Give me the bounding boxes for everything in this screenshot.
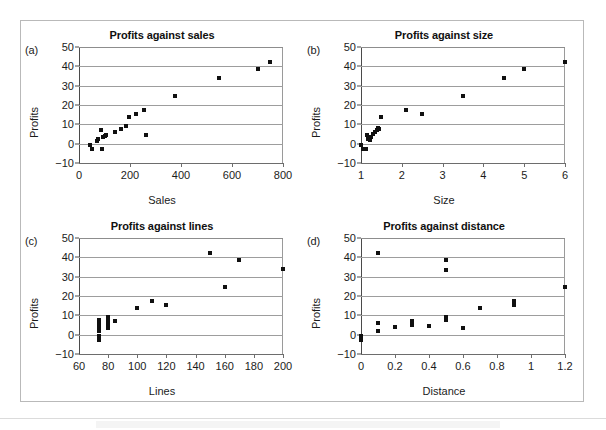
x-tick-mark: [130, 163, 131, 167]
y-tick-label: 50: [62, 233, 74, 244]
y-tick-mark: [75, 257, 79, 258]
gridline-y: [361, 86, 565, 87]
data-point: [359, 338, 363, 342]
gridline-y: [79, 86, 283, 87]
y-tick-label: 10: [344, 119, 356, 130]
x-tick-label: 400: [172, 170, 190, 181]
data-point: [208, 251, 212, 255]
data-point: [512, 303, 516, 307]
y-tick-mark: [75, 47, 79, 48]
y-tick-label: −10: [337, 349, 356, 360]
panel-c-profits-against-lines: (c) Profits against lines Profits −10010…: [21, 212, 303, 403]
y-tick-label: 10: [62, 119, 74, 130]
data-point: [444, 318, 448, 322]
x-tick-mark: [225, 354, 226, 358]
y-tick-label: 40: [62, 61, 74, 72]
data-point: [461, 94, 465, 98]
data-point: [127, 115, 131, 119]
x-tick-label: 0.8: [489, 361, 504, 372]
gridline-y: [79, 238, 283, 239]
gridline-y: [79, 277, 283, 278]
data-point: [96, 137, 100, 141]
data-point: [164, 303, 168, 307]
x-tick-mark: [108, 354, 109, 358]
data-point: [376, 321, 380, 325]
data-point: [563, 60, 567, 64]
data-point: [444, 268, 448, 272]
y-tick-label: 20: [344, 291, 356, 302]
y-axis-label-c: Profits: [29, 279, 40, 349]
data-point: [256, 67, 260, 71]
y-tick-label: 40: [344, 61, 356, 72]
plot-area-c: −10010203040506080100120140160180200: [79, 238, 283, 354]
y-tick-mark: [75, 124, 79, 125]
gridline-y: [361, 105, 565, 106]
y-tick-label: 0: [68, 329, 74, 340]
y-tick-mark: [75, 276, 79, 277]
data-point: [150, 299, 154, 303]
data-point: [99, 128, 103, 132]
x-tick-mark: [232, 163, 233, 167]
y-tick-mark: [75, 354, 79, 355]
data-point: [359, 143, 363, 147]
panel-label-c: (c): [25, 236, 37, 247]
x-tick-label: 2: [399, 170, 405, 181]
y-tick-mark: [357, 296, 361, 297]
data-point: [359, 334, 363, 338]
data-point: [364, 147, 368, 151]
gridline-y: [79, 47, 283, 48]
x-tick-label: 5: [521, 170, 527, 181]
scan-artifact-line: [0, 418, 606, 419]
panel-label-d: (d): [307, 236, 320, 247]
data-point: [97, 334, 101, 338]
data-point: [134, 112, 138, 116]
data-point: [135, 306, 139, 310]
y-tick-mark: [75, 66, 79, 67]
data-point: [376, 251, 380, 255]
x-tick-mark: [463, 354, 464, 358]
scan-artifact-smudge: [96, 421, 500, 428]
gridline-y: [361, 66, 565, 67]
x-tick-label: 4: [480, 170, 486, 181]
x-tick-label: 0.2: [387, 361, 402, 372]
data-point: [113, 319, 117, 323]
x-tick-label: 1.2: [557, 361, 572, 372]
y-tick-mark: [357, 66, 361, 67]
gridline-y: [361, 315, 565, 316]
data-point: [144, 133, 148, 137]
gridline-y: [361, 257, 565, 258]
x-tick-label: 0.6: [455, 361, 470, 372]
figure-panel-grid: (a) Profits against sales Profits −10010…: [20, 20, 584, 402]
y-tick-label: 10: [62, 310, 74, 321]
y-tick-label: 20: [344, 100, 356, 111]
y-tick-mark: [357, 47, 361, 48]
y-tick-mark: [357, 85, 361, 86]
data-point: [237, 258, 241, 262]
x-tick-label: 1: [528, 361, 534, 372]
gridline-y: [361, 238, 565, 239]
x-tick-label: 0.4: [421, 361, 436, 372]
gridline-y: [361, 47, 565, 48]
gridline-y: [79, 105, 283, 106]
x-tick-label: 180: [245, 361, 263, 372]
data-point: [142, 108, 146, 112]
x-tick-mark: [565, 163, 566, 167]
data-point: [173, 94, 177, 98]
y-tick-label: −10: [337, 158, 356, 169]
x-tick-mark: [565, 354, 566, 358]
panel-label-a: (a): [25, 45, 38, 56]
gridline-y: [361, 296, 565, 297]
data-point: [281, 267, 285, 271]
y-tick-mark: [75, 143, 79, 144]
data-point: [410, 323, 414, 327]
data-point: [113, 130, 117, 134]
x-tick-mark: [483, 163, 484, 167]
y-tick-label: 10: [344, 310, 356, 321]
y-tick-mark: [357, 124, 361, 125]
data-point: [522, 67, 526, 71]
x-tick-label: 120: [157, 361, 175, 372]
data-point: [563, 285, 567, 289]
x-tick-mark: [166, 354, 167, 358]
x-tick-label: 200: [274, 361, 292, 372]
y-tick-label: 50: [344, 42, 356, 53]
